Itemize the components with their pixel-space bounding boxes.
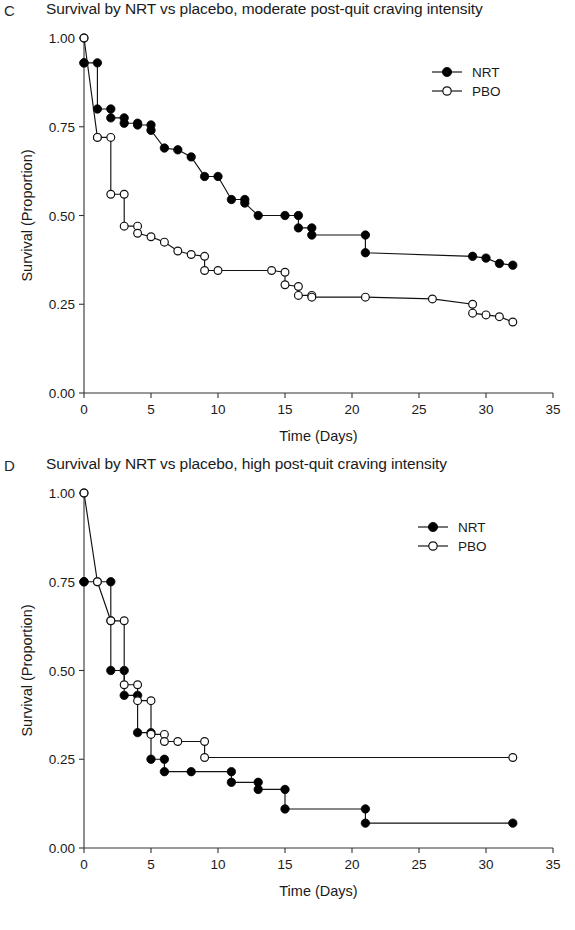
data-point-pbo — [281, 268, 289, 276]
data-point-pbo — [469, 309, 477, 317]
data-point-nrt — [254, 785, 262, 793]
panel-d: D Survival by NRT vs placebo, high post-… — [0, 455, 575, 930]
data-point-nrt — [468, 252, 476, 260]
x-tick-label: 35 — [545, 402, 560, 417]
y-tick-label: 0.00 — [49, 841, 75, 856]
data-point-nrt — [227, 767, 235, 775]
data-point-nrt — [133, 728, 141, 736]
x-tick-label: 30 — [478, 402, 493, 417]
data-point-nrt — [294, 211, 302, 219]
data-point-nrt — [214, 172, 222, 180]
data-point-nrt — [160, 767, 168, 775]
data-point-nrt — [308, 231, 316, 239]
data-point-nrt — [241, 199, 249, 207]
data-point-pbo — [161, 238, 169, 246]
data-point-pbo — [295, 291, 303, 299]
x-tick-label: 15 — [277, 402, 292, 417]
data-point-nrt — [80, 578, 88, 586]
data-point-nrt — [509, 819, 517, 827]
data-point-pbo — [120, 190, 128, 198]
data-point-pbo — [174, 247, 182, 255]
data-point-nrt — [509, 261, 517, 269]
data-point-nrt — [187, 153, 195, 161]
data-point-pbo — [201, 267, 209, 275]
y-axis-title: Survival (Proportion) — [19, 604, 35, 736]
data-point-pbo — [469, 300, 477, 308]
data-point-pbo — [201, 252, 209, 260]
data-point-nrt — [482, 254, 490, 262]
x-tick-label: 15 — [277, 857, 292, 872]
data-point-nrt — [281, 785, 289, 793]
x-tick-label: 10 — [210, 402, 225, 417]
survival-curve-pbo — [84, 493, 513, 757]
legend-marker-nrt — [442, 67, 451, 76]
data-point-pbo — [268, 267, 276, 275]
data-point-pbo — [187, 251, 195, 259]
data-point-nrt — [187, 767, 195, 775]
y-tick-label: 0.00 — [49, 386, 75, 401]
data-point-pbo — [120, 617, 128, 625]
data-point-nrt — [120, 691, 128, 699]
data-point-pbo — [295, 283, 303, 291]
data-point-pbo — [161, 738, 169, 746]
data-point-nrt — [361, 249, 369, 257]
panel-d-plot: 0.000.250.500.751.0005101520253035Time (… — [0, 455, 575, 930]
x-tick-label: 0 — [80, 402, 88, 417]
x-tick-label: 5 — [147, 857, 155, 872]
data-point-nrt — [93, 59, 101, 67]
x-tick-label: 35 — [545, 857, 560, 872]
data-point-nrt — [147, 126, 155, 134]
data-point-nrt — [147, 755, 155, 763]
data-point-pbo — [107, 617, 115, 625]
y-tick-label: 1.00 — [49, 31, 75, 46]
data-point-pbo — [214, 267, 222, 275]
data-point-nrt — [227, 195, 235, 203]
data-point-nrt — [107, 105, 115, 113]
data-point-nrt — [361, 231, 369, 239]
y-axis-title: Survival (Proportion) — [19, 149, 35, 281]
legend-label-nrt: NRT — [472, 65, 500, 80]
data-point-nrt — [107, 114, 115, 122]
legend-marker-nrt — [428, 522, 437, 531]
x-axis-title: Time (Days) — [279, 428, 357, 444]
y-tick-label: 0.25 — [49, 752, 75, 767]
data-point-pbo — [120, 222, 128, 230]
y-tick-label: 0.50 — [49, 664, 75, 679]
data-point-pbo — [308, 293, 316, 301]
data-point-pbo — [134, 697, 142, 705]
data-point-pbo — [147, 233, 155, 241]
legend-label-pbo: PBO — [472, 84, 501, 99]
data-point-pbo — [80, 34, 88, 42]
data-point-pbo — [362, 293, 370, 301]
data-point-pbo — [134, 229, 142, 237]
legend-label-nrt: NRT — [458, 520, 486, 535]
data-point-nrt — [133, 121, 141, 129]
data-point-pbo — [147, 697, 155, 705]
data-point-pbo — [482, 311, 490, 319]
y-tick-label: 0.75 — [49, 575, 75, 590]
data-point-nrt — [120, 119, 128, 127]
x-tick-label: 5 — [147, 402, 155, 417]
legend-label-pbo: PBO — [458, 539, 487, 554]
data-point-nrt — [495, 259, 503, 267]
y-tick-label: 0.50 — [49, 209, 75, 224]
data-point-nrt — [160, 144, 168, 152]
y-tick-label: 0.25 — [49, 297, 75, 312]
data-point-nrt — [254, 211, 262, 219]
data-point-nrt — [361, 819, 369, 827]
y-tick-label: 1.00 — [49, 486, 75, 501]
x-tick-label: 30 — [478, 857, 493, 872]
panel-c-plot: 0.000.250.500.751.0005101520253035Time (… — [0, 0, 575, 455]
data-point-pbo — [509, 754, 517, 762]
data-point-pbo — [201, 754, 209, 762]
x-tick-label: 25 — [411, 402, 426, 417]
data-point-pbo — [134, 681, 142, 689]
data-point-pbo — [496, 313, 504, 321]
survival-curve-pbo — [84, 38, 513, 322]
data-point-nrt — [174, 146, 182, 154]
data-point-pbo — [281, 281, 289, 289]
data-point-pbo — [107, 190, 115, 198]
data-point-nrt — [281, 805, 289, 813]
data-point-pbo — [120, 681, 128, 689]
x-tick-label: 0 — [80, 857, 88, 872]
